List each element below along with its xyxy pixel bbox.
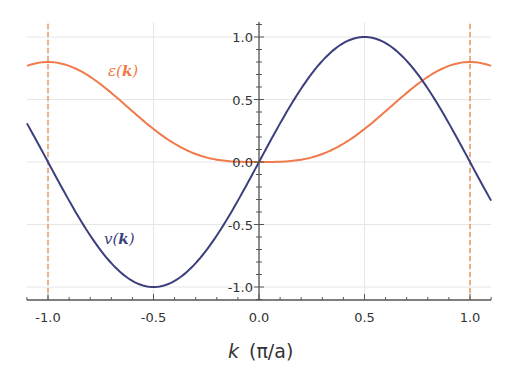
x-tick-label: 1.0 <box>460 310 481 325</box>
y-tick-label: 0.0 <box>232 155 253 170</box>
x-axis-title: k(π/a) <box>228 340 293 362</box>
epsilon-curve-label: ε(k) <box>108 62 138 80</box>
x-tick-label: -0.5 <box>141 310 166 325</box>
x-tick-label: 0.5 <box>354 310 375 325</box>
y-tick-label: 1.0 <box>232 30 253 45</box>
band-structure-chart: -1.0-0.50.00.51.0-1.0-0.50.00.51.0 ε(k) … <box>0 0 509 375</box>
axes <box>27 22 491 300</box>
y-tick-label: -0.5 <box>228 218 253 233</box>
y-tick-label: -1.0 <box>228 280 253 295</box>
x-tick-label: -1.0 <box>35 310 60 325</box>
x-tick-label: 0.0 <box>249 310 270 325</box>
velocity-curve-label: v(k) <box>104 230 135 248</box>
y-tick-label: 0.5 <box>232 93 253 108</box>
